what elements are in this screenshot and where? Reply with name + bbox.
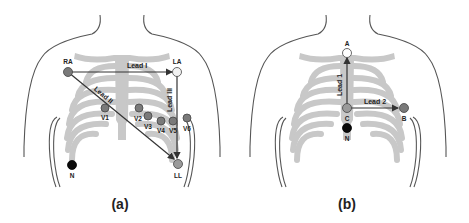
electrode-v3 bbox=[144, 112, 152, 120]
label-v3: V3 bbox=[144, 123, 152, 130]
ecg-electrode-placement-figure: Lead I Lead II Lead III RA LA LL N V1 V2… bbox=[0, 0, 469, 223]
electrode-ll bbox=[174, 160, 183, 169]
electrode-n-b bbox=[343, 124, 352, 133]
label-la: LA bbox=[173, 58, 182, 65]
electrode-v1 bbox=[101, 104, 109, 112]
electrode-b bbox=[400, 104, 409, 113]
label-v2: V2 bbox=[134, 115, 142, 122]
label-v4: V4 bbox=[157, 127, 165, 134]
label-ll: LL bbox=[174, 172, 182, 179]
electrode-v4 bbox=[157, 117, 165, 125]
electrode-v6 bbox=[183, 114, 191, 122]
label-ra: RA bbox=[63, 58, 73, 65]
label-v6: V6 bbox=[183, 125, 191, 132]
electrode-v5 bbox=[169, 117, 177, 125]
label-n-b: N bbox=[345, 135, 350, 142]
label-a: A bbox=[345, 40, 350, 47]
ribcage-a bbox=[67, 53, 177, 160]
electrode-la bbox=[173, 68, 182, 77]
electrode-n-a bbox=[68, 161, 77, 170]
label-v5: V5 bbox=[169, 127, 177, 134]
electrode-a bbox=[343, 49, 352, 58]
panel-b: Lead 1 Lead 2 A C B N (b) bbox=[250, 15, 446, 212]
lead-1-label: Lead 1 bbox=[336, 74, 343, 96]
panel-a: Lead I Lead II Lead III RA LA LL N V1 V2… bbox=[24, 15, 220, 212]
label-n-a: N bbox=[70, 172, 75, 179]
label-v1: V1 bbox=[101, 114, 109, 121]
panel-a-caption: (a) bbox=[111, 196, 128, 212]
lead-2-label: Lead 2 bbox=[364, 98, 386, 105]
label-c: C bbox=[345, 115, 350, 122]
lead-iii-label: Lead III bbox=[166, 88, 173, 112]
lead-i-label: Lead I bbox=[127, 62, 147, 69]
electrode-v2 bbox=[135, 104, 143, 112]
electrode-ra bbox=[64, 68, 73, 77]
electrode-c bbox=[343, 104, 352, 113]
panel-b-caption: (b) bbox=[338, 196, 356, 212]
label-b: B bbox=[402, 115, 407, 122]
